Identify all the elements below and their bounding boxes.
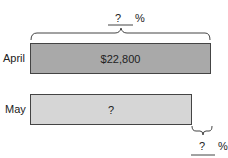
- top-brace-unknown: ?: [115, 12, 121, 24]
- bottom-brace-unit: %: [218, 140, 228, 152]
- bar-may: ?: [30, 94, 192, 125]
- top-brace: [31, 28, 210, 40]
- row-label-may: May: [5, 103, 26, 115]
- bar-april: $22,800: [30, 43, 211, 74]
- row-label-april: April: [3, 52, 25, 64]
- bottom-brace: [192, 126, 212, 135]
- bar-april-value: $22,800: [101, 53, 141, 65]
- top-brace-unit: %: [135, 12, 145, 24]
- bottom-brace-unknown: ?: [199, 140, 205, 152]
- bar-may-value: ?: [108, 104, 114, 116]
- braces-layer: [0, 0, 228, 158]
